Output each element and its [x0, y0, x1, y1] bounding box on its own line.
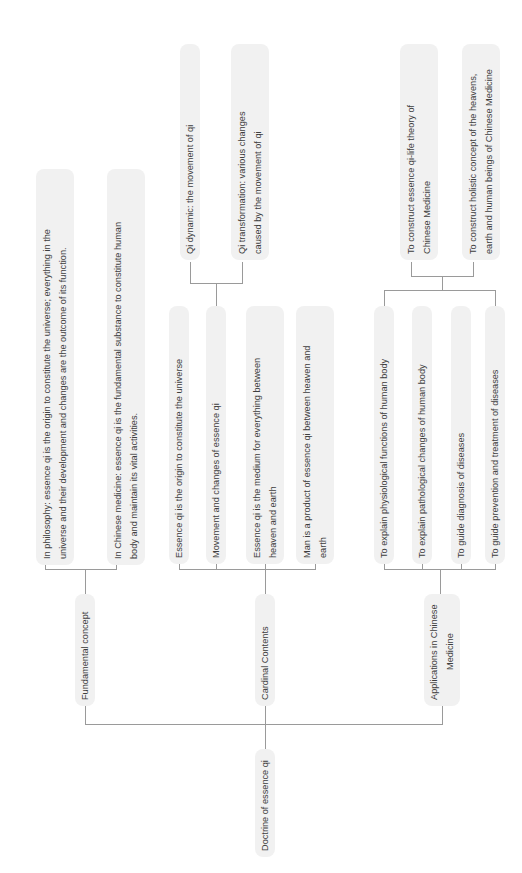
connector-qi-trunk	[216, 283, 217, 306]
essence-medium-line1: Essence qi is the medium for everything …	[249, 358, 265, 558]
philosophy-line1: In philosophy: essence qi is the origin …	[39, 229, 55, 559]
connector-level1-bar	[85, 724, 443, 725]
connector-cardinal	[265, 706, 266, 724]
philosophy-line2: universe and their development and chang…	[55, 247, 71, 559]
connector-app-top-l	[384, 290, 385, 306]
connector-applications	[442, 706, 443, 724]
connector-qi-c2	[242, 262, 243, 283]
connector-qi-bar	[190, 283, 243, 284]
chinese-medicine-line2: body and maintain its vital activities.	[126, 413, 142, 559]
construct-essence-line2: Chinese Medicine	[419, 181, 435, 254]
explain-pathological-label: To explain pathological changes of human…	[414, 364, 430, 558]
man-product-line1: Man is a product of essence qi between h…	[299, 346, 315, 558]
construct-essence-line1: To construct essence qi-life theory of	[403, 105, 419, 254]
connector-app-top-r	[495, 290, 496, 306]
essence-medium-line2: heaven and earth	[265, 486, 281, 558]
connector-qi-c1	[190, 262, 191, 283]
explain-physiological-label: To explain physiological functions of hu…	[376, 359, 392, 558]
connector-fundamental	[85, 706, 86, 724]
cardinal-contents-label: Cardinal Contents	[257, 626, 273, 700]
connector-app-top-trunk	[442, 276, 443, 290]
man-product-line2: earth	[315, 537, 331, 558]
connector-fc-bar	[45, 569, 117, 570]
qi-transformation-line1: Qi transformation: various changes	[234, 112, 250, 254]
qi-dynamic-label: Qi dynamic: the movement of qi	[182, 125, 198, 254]
connector-fc-trunk	[85, 569, 86, 595]
chinese-medicine-line1: In Chinese medicine: essence qi is the f…	[110, 222, 126, 559]
connector-fc-c2	[116, 565, 117, 569]
connector-root	[265, 724, 266, 750]
connector-app-trunk	[440, 569, 441, 595]
root-label: Doctrine of essence qi	[257, 760, 273, 851]
connector-cc-bar	[179, 569, 316, 570]
connector-app-top-bar	[384, 290, 496, 291]
construct-holistic-line2: earth and human beings of Chinese Medici…	[481, 69, 497, 254]
movement-changes-label: Movement and changes of essence qi	[208, 403, 224, 558]
fundamental-concept-label: Fundamental concept	[77, 612, 93, 700]
guide-diagnosis-label: To guide diagnosis of diseases	[453, 433, 469, 558]
connector-app-top-bracket	[411, 276, 474, 277]
applications-label-line2: Medicine	[442, 633, 458, 700]
applications-label-line1: Applications in Chinese	[426, 604, 442, 700]
root-box: Doctrine of essence qi	[255, 749, 275, 857]
connector-cc-trunk	[265, 569, 266, 595]
guide-prevention-label: To guide prevention and treatment of dis…	[487, 370, 503, 558]
qi-transformation-line2: caused by the movement of qi	[250, 131, 266, 254]
construct-holistic-line1: To construct holistic concept of the hea…	[465, 74, 481, 254]
connector-app-top-c1	[411, 262, 412, 276]
connector-fc-c1	[45, 565, 46, 569]
connector-app-bar	[384, 569, 496, 570]
connector-app-top-c2	[473, 262, 474, 276]
essence-origin-label: Essence qi is the origin to constitute t…	[171, 359, 187, 558]
